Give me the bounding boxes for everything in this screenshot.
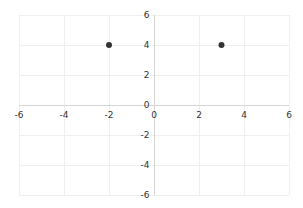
y-tick-label: -2 bbox=[141, 130, 150, 140]
y-tick-label: 4 bbox=[144, 40, 150, 50]
y-tick-label: 0 bbox=[144, 100, 150, 110]
y-tick-label: -4 bbox=[141, 160, 150, 170]
x-tick-label: -6 bbox=[15, 110, 24, 120]
scatter-chart: -6-4-20246 6420-2-4-6 bbox=[0, 0, 303, 208]
data-point bbox=[106, 42, 112, 48]
x-tick-label: -2 bbox=[105, 110, 114, 120]
x-tick-label: 2 bbox=[196, 110, 202, 120]
y-tick-label: 6 bbox=[144, 10, 150, 20]
y-tick-label: 2 bbox=[144, 70, 150, 80]
x-tick-labels: -6-4-20246 bbox=[15, 110, 293, 120]
x-tick-label: 4 bbox=[241, 110, 247, 120]
x-tick-label: 0 bbox=[151, 110, 157, 120]
y-tick-label: -6 bbox=[141, 190, 150, 200]
data-point bbox=[219, 42, 225, 48]
axes bbox=[19, 15, 289, 195]
x-tick-label: 6 bbox=[286, 110, 292, 120]
x-tick-label: -4 bbox=[60, 110, 69, 120]
